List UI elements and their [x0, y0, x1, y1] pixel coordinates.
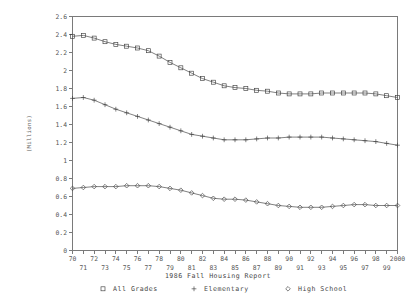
data-point-marker: [178, 128, 183, 133]
data-point-marker: [395, 143, 400, 148]
data-point-marker: [363, 138, 368, 143]
data-point-marker: [113, 107, 118, 112]
x-tick-label: 89: [274, 264, 282, 272]
data-point-marker: [81, 95, 86, 100]
x-tick-label: 76: [134, 255, 142, 263]
y-tick-label: 2.6: [55, 13, 67, 21]
series-all-grades: [71, 33, 400, 99]
x-tick-label: 84: [220, 255, 228, 263]
data-point-marker: [222, 137, 227, 142]
x-tick-label: 82: [199, 255, 207, 263]
x-tick-label: 79: [166, 264, 174, 272]
x-tick-label: 78: [155, 255, 163, 263]
y-axis: 00.20.40.60.811.21.41.61.822.22.42.6: [55, 13, 72, 255]
y-tick-label: 1.2: [55, 139, 67, 147]
legend-label: High School: [298, 285, 347, 293]
x-tick-label: 2000: [390, 255, 406, 263]
data-point-marker: [124, 110, 129, 115]
x-tick-label: 88: [264, 255, 272, 263]
data-point-marker: [243, 137, 248, 142]
data-point-marker: [308, 135, 313, 140]
data-point-marker: [189, 132, 194, 137]
y-axis-title: (Millions): [26, 115, 32, 153]
data-point-marker: [319, 135, 324, 140]
x-tick-label: 81: [188, 264, 196, 272]
data-point-marker: [200, 134, 205, 139]
x-tick-label: 96: [350, 255, 358, 263]
x-tick-label: 99: [383, 264, 391, 272]
x-tick-label: 86: [242, 255, 250, 263]
data-point-marker: [92, 98, 97, 103]
x-tick-label: 72: [90, 255, 98, 263]
data-point-marker: [70, 96, 75, 101]
x-axis: 7071727374757677787980818283848586878889…: [69, 251, 406, 272]
x-tick-label: 80: [177, 255, 185, 263]
x-tick-label: 71: [79, 264, 87, 272]
x-tick-label: 94: [329, 255, 337, 263]
x-tick-label: 73: [101, 264, 109, 272]
x-tick-label: 91: [296, 264, 304, 272]
data-point-marker: [384, 141, 389, 146]
legend: All GradesElementaryHigh School: [101, 285, 347, 293]
legend-marker: [286, 287, 291, 292]
x-tick-label: 75: [123, 264, 131, 272]
data-point-marker: [298, 135, 303, 140]
y-tick-label: 2.4: [55, 31, 67, 39]
legend-marker: [192, 286, 197, 291]
x-tick-label: 92: [307, 255, 315, 263]
data-point-marker: [233, 137, 238, 142]
x-tick-label: 90: [285, 255, 293, 263]
data-point-marker: [352, 137, 357, 142]
y-tick-label: 1.4: [55, 121, 67, 129]
data-point-marker: [287, 135, 292, 140]
x-tick-label: 74: [112, 255, 120, 263]
data-point-marker: [276, 136, 281, 141]
plot-frame: [73, 17, 398, 251]
x-tick-label: 77: [144, 264, 152, 272]
line-chart: 00.20.40.60.811.21.41.61.822.22.42.6(Mil…: [0, 0, 419, 307]
legend-label: All Grades: [113, 285, 158, 293]
y-tick-label: 0.4: [55, 211, 67, 219]
data-point-marker: [103, 102, 108, 107]
y-tick-label: 1: [63, 157, 67, 165]
y-tick-label: 0.2: [55, 229, 67, 237]
y-tick-label: 1.6: [55, 103, 67, 111]
x-axis-title: 1986 Fall Housing Report: [165, 272, 271, 280]
data-point-marker: [146, 118, 151, 123]
x-tick-label: 95: [339, 264, 347, 272]
series-elementary: [70, 95, 400, 148]
y-tick-label: 0.6: [55, 193, 67, 201]
y-tick-label: 2.2: [55, 49, 67, 57]
data-point-marker: [211, 136, 216, 141]
legend-marker: [101, 287, 105, 291]
y-tick-label: 0: [63, 247, 67, 255]
x-tick-label: 97: [361, 264, 369, 272]
y-tick-label: 0.8: [55, 175, 67, 183]
data-point-marker: [168, 125, 173, 130]
y-tick-label: 2: [63, 67, 67, 75]
data-point-marker: [265, 136, 270, 141]
series-line: [73, 35, 398, 97]
data-point-marker: [135, 114, 140, 119]
data-point-marker: [341, 137, 346, 142]
data-point-marker: [373, 139, 378, 144]
data-point-marker: [254, 137, 259, 142]
x-tick-label: 70: [69, 255, 77, 263]
legend-label: Elementary: [204, 285, 249, 293]
x-tick-label: 93: [318, 264, 326, 272]
x-tick-label: 98: [372, 255, 380, 263]
x-tick-label: 83: [209, 264, 217, 272]
x-tick-label: 87: [253, 264, 261, 272]
series-high-school: [70, 183, 400, 209]
data-point-marker: [330, 136, 335, 141]
y-tick-label: 1.8: [55, 85, 67, 93]
chart-figure: 00.20.40.60.811.21.41.61.822.22.42.6(Mil…: [0, 0, 419, 307]
x-tick-label: 85: [231, 264, 239, 272]
data-point-marker: [157, 121, 162, 126]
